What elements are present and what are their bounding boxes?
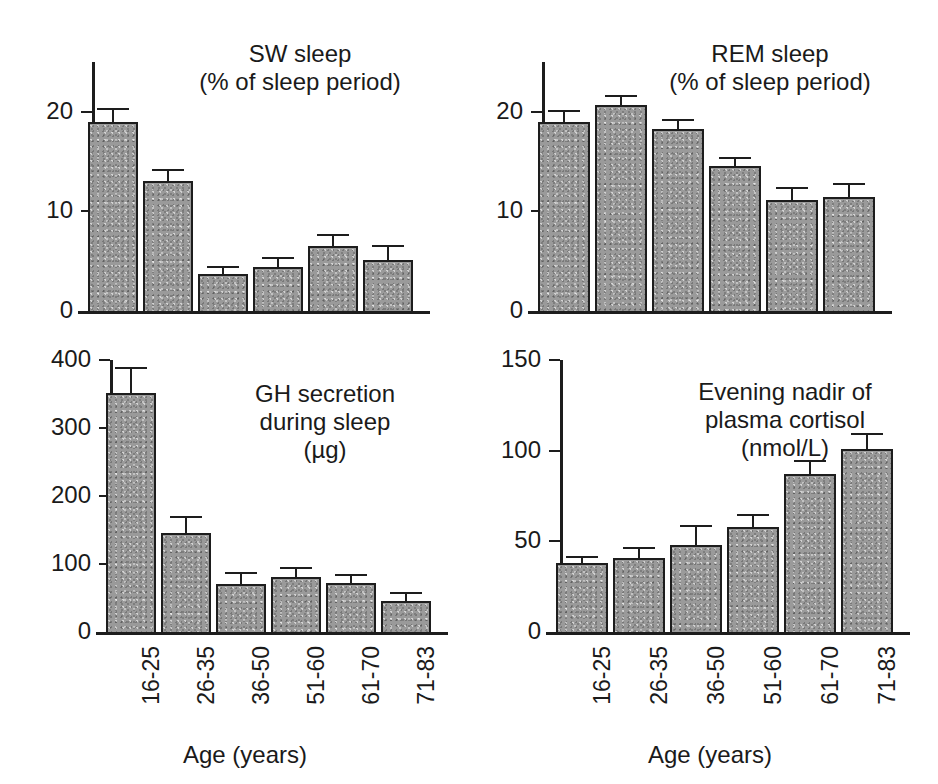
- x-axis-title-left: Age (years): [30, 742, 460, 768]
- panel-title: Evening nadir ofplasma cortisol(nmol/L): [640, 378, 930, 462]
- error-bar-stem: [295, 567, 297, 577]
- y-tick: [99, 359, 110, 361]
- y-tick-label: 50: [455, 528, 541, 552]
- category-label: 16-25: [140, 646, 163, 705]
- error-bar-stem: [387, 245, 389, 260]
- error-bar-stem: [734, 157, 736, 166]
- panel-rem-sleep: 01020REM sleep(% of sleep period): [490, 40, 930, 300]
- error-bar: [335, 574, 367, 584]
- y-tick: [549, 359, 560, 361]
- error-bar: [719, 157, 751, 166]
- error-bar-stem: [620, 95, 622, 105]
- bar: [556, 563, 608, 634]
- error-bar-stem: [563, 110, 565, 122]
- bar: [595, 105, 647, 313]
- bar: [363, 260, 413, 313]
- category-label: 26-35: [648, 646, 671, 705]
- error-bar: [115, 367, 147, 393]
- category-label: 71-83: [876, 646, 899, 705]
- y-tick-label: 0: [455, 619, 541, 643]
- error-bar-stem: [405, 592, 407, 601]
- error-bar: [207, 266, 239, 274]
- y-tick-label: 0: [437, 298, 523, 322]
- panel-title-line: (nmol/L): [640, 434, 930, 462]
- error-bar-stem: [185, 516, 187, 533]
- error-bar: [566, 556, 598, 563]
- error-bar: [225, 572, 257, 584]
- y-tick-label: 10: [437, 198, 523, 222]
- panel-cortisol-nadir: 050100150Evening nadir ofplasma cortisol…: [490, 350, 930, 640]
- panel-title: GH secretionduring sleep(µg): [195, 380, 455, 464]
- error-bar-stem: [350, 574, 352, 584]
- bar: [381, 601, 431, 634]
- y-tick-label: 10: [0, 198, 73, 222]
- category-label: 16-25: [591, 646, 614, 705]
- y-tick-label: 400: [5, 347, 91, 371]
- panel-title: SW sleep(% of sleep period): [150, 40, 450, 96]
- error-bar: [680, 525, 712, 545]
- category-labels-left: 16-2526-3536-5051-6061-7071-83: [30, 646, 460, 726]
- y-tick: [81, 111, 92, 113]
- error-bar: [605, 95, 637, 105]
- panel-title-line: (% of sleep period): [620, 68, 920, 96]
- bar: [161, 533, 211, 634]
- error-bar: [623, 547, 655, 558]
- bar: [613, 558, 665, 634]
- error-bar: [548, 110, 580, 122]
- error-bar: [737, 514, 769, 527]
- y-tick-label: 100: [455, 438, 541, 462]
- bar: [106, 393, 156, 634]
- bar: [271, 577, 321, 634]
- error-bar: [262, 257, 294, 267]
- category-label: 71-83: [415, 646, 438, 705]
- panel-title-line: (µg): [195, 436, 455, 464]
- bar: [841, 449, 893, 634]
- bar: [766, 200, 818, 313]
- panel-title-line: REM sleep: [620, 40, 920, 68]
- y-tick: [549, 540, 560, 542]
- error-bar: [97, 108, 129, 122]
- error-bar-stem: [332, 234, 334, 246]
- error-bar-stem: [277, 257, 279, 267]
- bar: [823, 197, 875, 313]
- error-bar: [662, 119, 694, 129]
- category-label: 51-60: [762, 646, 785, 705]
- category-label: 36-50: [705, 646, 728, 705]
- error-bar-stem: [677, 119, 679, 129]
- y-tick-label: 0: [0, 298, 73, 322]
- bar: [652, 129, 704, 313]
- category-label: 36-50: [250, 646, 273, 705]
- panel-title-line: GH secretion: [195, 380, 455, 408]
- category-label: 51-60: [305, 646, 328, 705]
- error-bar: [390, 592, 422, 601]
- error-bar: [372, 245, 404, 260]
- category-label: 61-70: [360, 646, 383, 705]
- error-bar-stem: [112, 108, 114, 122]
- bar: [198, 274, 248, 313]
- bar: [88, 122, 138, 313]
- bar: [670, 545, 722, 634]
- error-bar-stem: [752, 514, 754, 527]
- error-bar: [280, 567, 312, 577]
- figure-root: 01020SW sleep(% of sleep period) 01020RE…: [0, 0, 938, 784]
- y-tick: [549, 450, 560, 452]
- bar: [326, 583, 376, 634]
- error-bar-stem: [167, 169, 169, 181]
- error-bar: [776, 187, 808, 200]
- category-labels-right: 16-2526-3536-5051-6061-7071-83: [490, 646, 930, 726]
- bar: [253, 267, 303, 313]
- panel-gh-secretion: 0100200300400GH secretionduring sleep(µg…: [30, 350, 460, 640]
- panel-title-line: (% of sleep period): [150, 68, 450, 96]
- panel-title-line: during sleep: [195, 408, 455, 436]
- category-label: 26-35: [195, 646, 218, 705]
- panel-title-line: plasma cortisol: [640, 406, 930, 434]
- y-tick-label: 20: [0, 99, 73, 123]
- error-bar: [317, 234, 349, 246]
- y-tick-label: 300: [5, 415, 91, 439]
- category-label: 61-70: [819, 646, 842, 705]
- error-bar-stem: [848, 183, 850, 198]
- bar: [709, 166, 761, 313]
- error-bar-stem: [130, 367, 132, 393]
- y-tick-label: 100: [5, 551, 91, 575]
- y-tick-label: 20: [437, 99, 523, 123]
